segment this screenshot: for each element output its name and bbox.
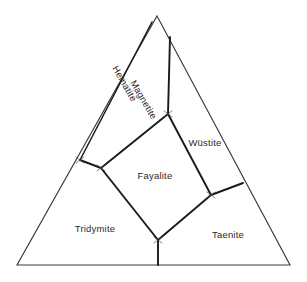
fayalite-taenite-boundary — [158, 195, 211, 240]
wustite-taenite-boundary — [211, 183, 243, 195]
phase-label-wustite: Wüstite — [188, 137, 221, 148]
phase-label-taenite: Taenite — [212, 229, 244, 240]
phase-label-tridymite: Tridymite — [75, 223, 116, 234]
hematite-tie-line-boundary — [80, 160, 101, 168]
phase-diagram-canvas: Hematite Magnetite Wüstite Fayalite Trid… — [0, 0, 307, 282]
fayalite-wustite-boundary — [168, 114, 211, 195]
magnetite-wustite-boundary — [168, 37, 170, 114]
triangle-outline — [17, 16, 290, 265]
phase-label-fayalite: Fayalite — [138, 170, 173, 181]
magnetite-fayalite-boundary — [101, 114, 168, 168]
ternary-phase-diagram: Hematite Magnetite Wüstite Fayalite Trid… — [0, 0, 307, 282]
